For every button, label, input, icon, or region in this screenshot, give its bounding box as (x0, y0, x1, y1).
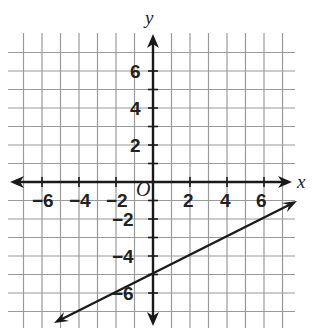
x-tick-label: 2 (183, 190, 194, 211)
y-tick-label: 4 (130, 98, 141, 119)
x-tick-label: −2 (106, 190, 128, 211)
coordinate-plane: y x O −6 −4 −2 2 4 6 6 4 2 −2 −4 −6 (0, 0, 315, 328)
x-tick-label: −6 (32, 190, 54, 211)
y-tick-label: −2 (112, 209, 134, 230)
y-tick-label: −6 (112, 283, 134, 304)
y-axis-label: y (143, 7, 154, 28)
x-tick-label: 6 (256, 190, 267, 211)
x-tick-label: −4 (69, 190, 91, 211)
origin-label: O (136, 178, 150, 200)
y-tick-label: 6 (130, 61, 141, 82)
x-axis-label: x (296, 171, 306, 192)
x-tick-label: 4 (220, 190, 231, 211)
grid (8, 33, 295, 328)
y-tick-label: −4 (112, 246, 134, 267)
y-tick-label: 2 (130, 135, 141, 156)
x-axis (10, 176, 292, 188)
